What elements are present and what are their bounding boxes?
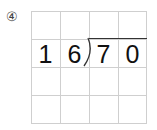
divisor-digit-tens: 1 [31, 40, 60, 68]
grid-line [31, 11, 147, 12]
grid-line [31, 95, 147, 96]
division-grid: 1 6 7 0 [31, 11, 147, 124]
division-bracket-icon [82, 37, 92, 67]
division-bar [89, 38, 147, 39]
problem-number: ④ [6, 10, 18, 23]
grid-line [31, 123, 147, 124]
dividend-digit-ones: 0 [118, 40, 147, 68]
dividend-digit-tens: 7 [89, 40, 118, 68]
